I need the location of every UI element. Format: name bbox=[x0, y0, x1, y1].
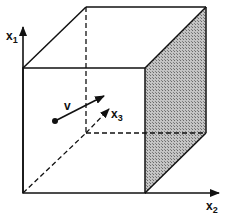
x3-axis-arrow bbox=[86, 109, 109, 133]
x3-axis-dashed bbox=[23, 133, 86, 193]
front-face bbox=[23, 68, 145, 193]
shaded-right-face bbox=[145, 7, 206, 193]
top-left-depth-edge bbox=[23, 7, 86, 68]
x2-label: x2 bbox=[206, 199, 218, 215]
vector-label: v bbox=[64, 99, 71, 113]
x1-label: x1 bbox=[6, 29, 18, 45]
cube-diagram: x1 x2 x3 v bbox=[0, 0, 226, 220]
x3-label: x3 bbox=[111, 107, 123, 123]
vector-v-arrow bbox=[55, 96, 104, 121]
